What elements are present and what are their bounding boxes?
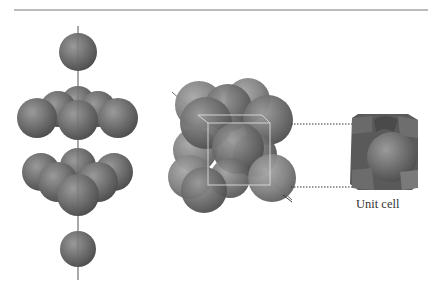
stacked-layers-panel: [17, 26, 138, 280]
unit-cell-label: Unit cell: [356, 197, 399, 212]
crystal-structure-figure: [0, 0, 443, 289]
fcc-cluster-panel: [168, 78, 296, 213]
unit-cell-panel: [350, 114, 418, 190]
